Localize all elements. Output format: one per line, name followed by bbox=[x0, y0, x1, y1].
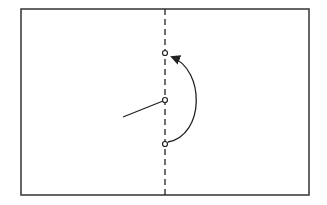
diagram-canvas bbox=[0, 0, 327, 205]
point-bottom bbox=[163, 142, 168, 147]
curved-arrow bbox=[168, 57, 196, 142]
point-middle bbox=[163, 98, 168, 103]
rotated-segment bbox=[123, 101, 163, 117]
point-top bbox=[163, 51, 168, 56]
